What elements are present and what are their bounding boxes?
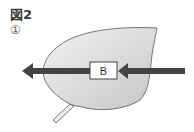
leaf-stem [53, 104, 74, 123]
leaf-diagram: B [0, 0, 194, 132]
box-b: B [90, 62, 117, 79]
box-b-label: B [100, 65, 107, 77]
